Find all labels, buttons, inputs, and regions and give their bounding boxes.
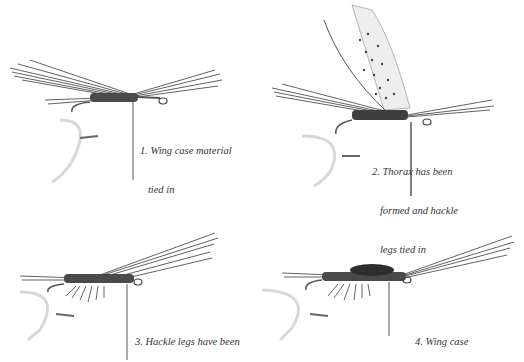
step-3-illustration: 3. Hackle legs have been formed and the … <box>0 200 262 362</box>
caption-line: 4. Wing case <box>415 335 477 348</box>
step-3-caption: 3. Hackle legs have been formed and the … <box>135 309 256 362</box>
caption-line: 2. Thorax has been <box>372 165 458 178</box>
fly-step-4-drawing <box>262 200 524 362</box>
step-4-illustration: 4. Wing case being tied down at the <box>262 200 524 362</box>
caption-line: 3. Hackle legs have been <box>135 335 256 348</box>
step-4-caption: 4. Wing case being tied down at the <box>415 309 477 362</box>
step-1-illustration: 1. Wing case material tied in <box>0 0 262 200</box>
step-2-illustration: 2. Thorax has been formed and hackle leg… <box>262 0 524 200</box>
caption-line: tied in <box>140 183 232 196</box>
caption-line: 1. Wing case material <box>140 144 232 157</box>
